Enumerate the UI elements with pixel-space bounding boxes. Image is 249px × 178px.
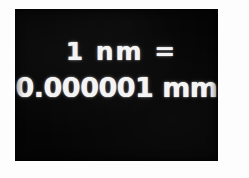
image-canvas: 1 nm = 0.000001 mm [0,0,249,178]
equation-line-bottom: 0.000001 mm [15,71,218,105]
equation-text-block: 1 nm = 0.000001 mm [15,37,218,105]
equation-line-top: 1 nm = [15,37,218,67]
blackboard-panel: 1 nm = 0.000001 mm [15,9,218,161]
